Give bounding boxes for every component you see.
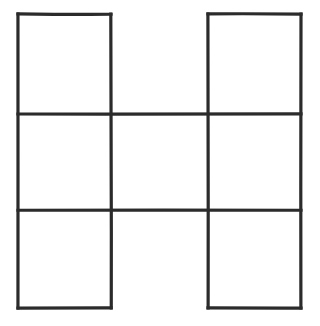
grid-segment-inner-left-vertical <box>111 14 112 308</box>
figure-canvas: Line drawing of a 3 by 3 square grid wit… <box>0 0 320 326</box>
figure-background <box>0 0 320 326</box>
grid-figure-svg <box>0 0 320 326</box>
